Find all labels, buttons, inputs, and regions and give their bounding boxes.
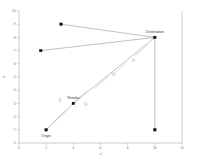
data-point-node-left [39,49,42,52]
x-tick-label: 0 [18,146,20,150]
hash-mark-hash-4 [114,62,128,74]
y-axis-ticks: 012345678910 [12,9,19,145]
node-label-destination: Destination [146,30,164,34]
data-point-destination [154,36,157,39]
node-labels: OriginRetailerDestination [41,30,163,137]
node-label-origin: Origin [41,134,51,138]
y-tick-label: 3 [14,102,16,106]
route-hash-marks [53,45,148,123]
hash-mark-hash-5 [134,45,148,57]
y-tick-label: 2 [14,115,16,119]
x-axis-title: x [100,152,102,156]
x-tick-label: 10 [153,146,157,150]
y-tick-label: 1 [14,128,16,132]
flow-label-q3: Q₃ [111,72,116,76]
hash-mark-hash-1 [53,111,67,123]
flow-label-q1: Q₁ [59,98,64,102]
y-axis-title: y [2,76,6,78]
y-tick-label: 8 [14,36,16,40]
route-edge-upper-destination [61,24,155,37]
y-tick-label: 7 [14,49,16,53]
y-tick-label: 4 [14,88,16,92]
x-tick-label: 2 [45,146,47,150]
y-tick-label: 10 [12,9,16,13]
chart-figure: 024681012 012345678910 OriginRetailerDes… [0,0,203,160]
data-point-node-lower [154,129,157,132]
data-point-origin [45,129,48,132]
flow-label-q4: Q₄ [132,58,137,62]
y-tick-label: 9 [14,22,16,26]
flow-label-q2: Q₂ [84,102,89,106]
y-tick-label: 6 [14,62,16,66]
data-point-retailer [72,102,75,105]
y-tick-label: 5 [14,75,16,79]
route-edges [41,24,155,130]
x-axis-ticks: 024681012 [18,143,184,150]
data-point-node-upper [60,23,63,26]
hash-mark-hash-3 [95,76,109,88]
route-edge-retailer-destination [73,37,154,103]
route-edge-left-destination [41,37,155,50]
x-tick-label: 4 [72,146,74,150]
x-tick-label: 6 [100,146,102,150]
x-tick-label: 8 [127,146,129,150]
y-tick-label: 0 [14,141,16,145]
x-tick-label: 12 [180,146,184,150]
scatter-plot-svg: 024681012 012345678910 OriginRetailerDes… [0,0,203,160]
node-label-retailer: Retailer [67,96,80,100]
